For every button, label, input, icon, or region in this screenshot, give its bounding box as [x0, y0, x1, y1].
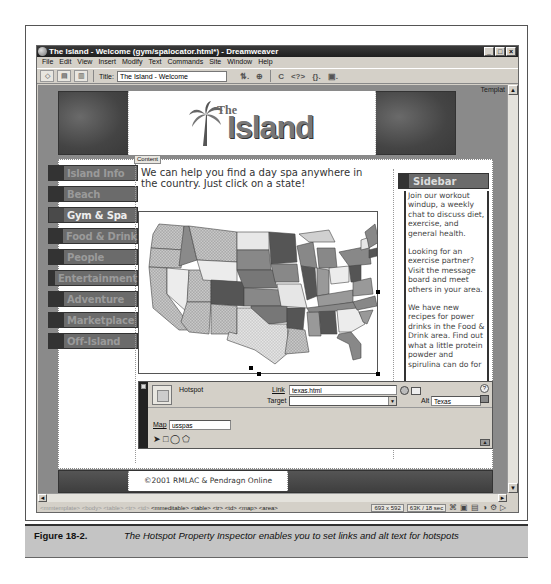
- intro-text: We can help you find a day spa anywhere …: [141, 167, 381, 189]
- target-select[interactable]: ▼: [289, 396, 397, 406]
- nav-label: Entertainment: [55, 273, 137, 284]
- hotspot-property-inspector: Hotspot Link Target ▼ Alt ? Map ➤ □ ◯ ⬠: [138, 381, 493, 449]
- scroll-right-arrow[interactable]: ►: [498, 494, 507, 502]
- menu-site[interactable]: Site: [206, 57, 224, 67]
- link-input[interactable]: [289, 385, 397, 395]
- menu-edit[interactable]: Edit: [56, 57, 74, 67]
- oval-hotspot-tool-icon[interactable]: ◯: [170, 434, 180, 444]
- hotspot-tools: ➤ □ ◯ ⬠: [153, 434, 190, 444]
- toolbar-divider: [270, 70, 271, 82]
- inspector-menu-icon[interactable]: [141, 384, 146, 389]
- nav-marketplace[interactable]: Marketplace: [48, 312, 138, 328]
- link-label: Link: [272, 386, 285, 393]
- history-icon[interactable]: ▷: [500, 504, 506, 512]
- pointer-hotspot-tool-icon[interactable]: ➤: [153, 434, 161, 444]
- css-styles-icon[interactable]: ◑: [482, 504, 487, 512]
- nav-gym-spa[interactable]: Gym & Spa: [48, 207, 138, 223]
- sidebar-paragraph: We have new recipes for power drinks in …: [408, 303, 487, 369]
- figure-caption-text: The Hotspot Property Inspector enables y…: [124, 530, 524, 542]
- nav-off-island[interactable]: Off-Island: [48, 333, 138, 349]
- window-size-dropdown[interactable]: 693 x 592: [371, 504, 403, 512]
- rectangle-hotspot-tool-icon[interactable]: □: [163, 434, 168, 444]
- nav-food-drink[interactable]: Food & Drink: [48, 228, 138, 244]
- us-map-image[interactable]: [138, 211, 378, 374]
- footer-copyright: ©2001 RMLAC & Pendragn Online: [128, 471, 288, 491]
- behaviors-icon[interactable]: ⚙: [490, 504, 497, 512]
- nav-entertainment[interactable]: Entertainment: [48, 270, 138, 286]
- collapse-inspector-icon[interactable]: ▲: [480, 439, 490, 446]
- logo-cell: The Island: [128, 91, 376, 155]
- nav-label: Island Info: [64, 168, 124, 179]
- nav-beach[interactable]: Beach: [48, 186, 138, 202]
- menu-bar: File Edit View Insert Modify Text Comman…: [37, 57, 518, 67]
- preview-browser-icon[interactable]: ⊕: [254, 72, 265, 81]
- chevron-down-icon[interactable]: ▼: [388, 397, 396, 405]
- nav-label: Adventure: [64, 294, 124, 305]
- file-management-icon[interactable]: ⇅.: [238, 72, 251, 81]
- nav-tab-marker: [49, 229, 63, 243]
- refresh-icon[interactable]: C: [276, 72, 286, 81]
- menu-window[interactable]: Window: [224, 57, 255, 67]
- maximize-button[interactable]: □: [495, 47, 505, 56]
- horizontal-scrollbar[interactable]: ◄ ►: [38, 493, 507, 502]
- code-view-icon[interactable]: ◇: [40, 70, 54, 82]
- site-icon[interactable]: ⌘: [449, 504, 457, 512]
- scroll-left-arrow[interactable]: ◄: [38, 494, 47, 502]
- split-view-icon[interactable]: ▤: [57, 70, 71, 82]
- menu-view[interactable]: View: [74, 57, 95, 67]
- menu-insert[interactable]: Insert: [95, 57, 119, 67]
- minimize-button[interactable]: _: [484, 47, 494, 56]
- view-options-icon[interactable]: ▣.: [326, 72, 340, 81]
- status-bar: <mmtemplate> <body> <table> <tr> <td> <m…: [37, 503, 518, 513]
- download-time: 63K / 18 sec: [407, 504, 446, 512]
- header-texture-left: [58, 91, 130, 155]
- resize-handle[interactable]: [376, 290, 380, 294]
- scroll-down-arrow[interactable]: ▼: [508, 483, 518, 493]
- help-icon[interactable]: ?: [480, 384, 489, 393]
- menu-file[interactable]: File: [39, 57, 56, 67]
- template-label: Templat: [480, 86, 505, 93]
- menu-modify[interactable]: Modify: [119, 57, 146, 67]
- tag-selector-inactive[interactable]: <mmtemplate> <body> <table> <tr> <td>: [40, 505, 149, 511]
- vertical-scrollbar[interactable]: ▲ ▼: [507, 85, 518, 493]
- resize-handle[interactable]: [376, 372, 380, 376]
- design-view-icon[interactable]: ▥: [74, 70, 88, 82]
- nav-tab-marker: [49, 187, 64, 201]
- hotspot-icon: [152, 385, 172, 405]
- nav-adventure[interactable]: Adventure: [48, 291, 138, 307]
- sidebar-paragraph: Looking for an exercise partner? Visit t…: [408, 247, 487, 294]
- menu-text[interactable]: Text: [146, 57, 165, 67]
- title-label: Title:: [99, 73, 114, 80]
- figure-number: Figure 18-2.: [34, 530, 87, 541]
- inspector-drag-handle[interactable]: [139, 382, 148, 448]
- reference-icon[interactable]: <?>: [289, 72, 307, 81]
- nav-tab-marker: [49, 166, 64, 180]
- page-title-input[interactable]: [117, 71, 227, 82]
- tag-selector-active[interactable]: <mmeditable> <table> <tr> <td> <map> <ar…: [151, 505, 278, 511]
- code-navigation-icon[interactable]: {}.: [310, 72, 322, 81]
- sidebar-tab-marker: [399, 174, 409, 188]
- dreamweaver-window: The Island - Welcome (gym/spalocator.htm…: [36, 45, 519, 513]
- scroll-up-arrow[interactable]: ▲: [508, 85, 518, 95]
- toolbar-divider: [93, 70, 94, 82]
- resize-handle[interactable]: [257, 372, 261, 376]
- close-button[interactable]: ×: [506, 47, 516, 56]
- nav-people[interactable]: People: [48, 249, 138, 265]
- inspector-type-label: Hotspot: [179, 386, 203, 393]
- map-name-input[interactable]: [169, 420, 231, 430]
- browse-folder-icon[interactable]: [411, 387, 421, 395]
- quick-tag-editor-icon[interactable]: [480, 395, 489, 403]
- nav-island-info[interactable]: Island Info: [48, 165, 138, 181]
- point-to-file-icon[interactable]: [400, 386, 409, 395]
- document-canvas[interactable]: Templat The Island Content Island Info: [38, 85, 507, 493]
- nav-tab-marker: [49, 292, 64, 306]
- assets-icon[interactable]: ▣: [460, 504, 468, 512]
- menu-help[interactable]: Help: [255, 57, 275, 67]
- polygon-hotspot-tool-icon[interactable]: ⬠: [182, 434, 190, 444]
- alt-input[interactable]: [431, 396, 481, 406]
- nav-label: People: [64, 252, 104, 263]
- nav-label: Marketplace: [64, 315, 134, 326]
- html-styles-icon[interactable]: ▤: [471, 504, 479, 512]
- content-region-tag[interactable]: Content: [134, 155, 161, 164]
- menu-commands[interactable]: Commands: [164, 57, 206, 67]
